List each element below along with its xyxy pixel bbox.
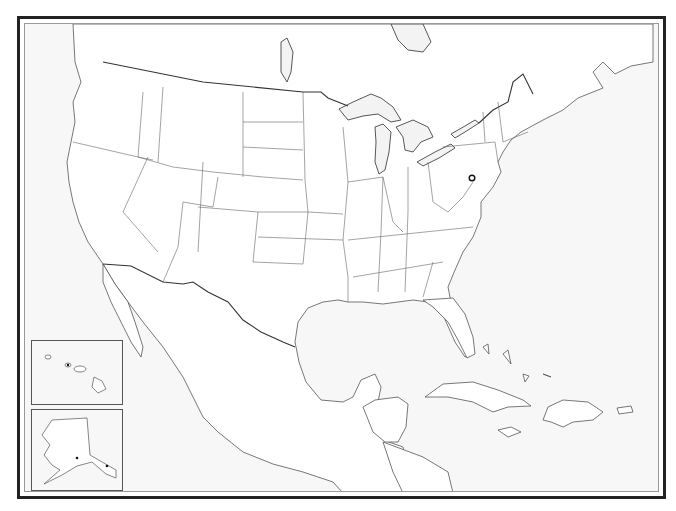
puerto-rico: [617, 406, 633, 414]
alaska-inset: [31, 409, 123, 491]
hawaii-inset: [31, 340, 123, 405]
cuba: [425, 382, 531, 412]
map-area: [24, 23, 659, 492]
bahamas: [483, 344, 551, 382]
capital-marker-icon: [469, 175, 475, 181]
jamaica: [498, 427, 521, 437]
map-frame: [17, 16, 666, 499]
hispaniola: [543, 400, 603, 427]
hawaii-islands: [32, 341, 122, 404]
alaska-outline: [32, 410, 122, 490]
